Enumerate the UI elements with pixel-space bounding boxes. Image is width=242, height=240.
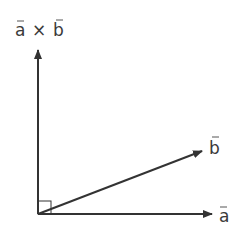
- label-a-text: a: [219, 206, 229, 226]
- cross-product-diagram: a b a × b: [0, 0, 242, 240]
- label-axb-operator: ×: [32, 20, 46, 40]
- label-axb: a × b: [15, 20, 64, 40]
- label-a: a: [219, 206, 229, 226]
- label-b-text: b: [209, 138, 220, 158]
- label-b: b: [209, 137, 220, 158]
- label-axb-left: a: [15, 20, 25, 40]
- vector-b-arrow: [38, 151, 202, 214]
- label-axb-right: b: [53, 20, 64, 40]
